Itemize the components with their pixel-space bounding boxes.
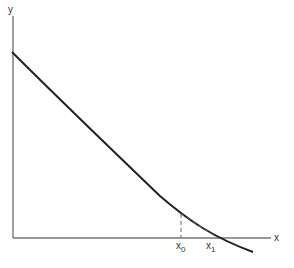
- x1-label: x1: [206, 240, 216, 254]
- x1-subscript: 1: [211, 245, 216, 254]
- x-axis-label: x: [274, 232, 279, 243]
- function-curve: [12, 52, 253, 252]
- newton-method-diagram: y x x0 x1: [0, 0, 294, 268]
- x0-subscript: 0: [181, 245, 186, 254]
- y-axis-label: y: [8, 4, 13, 15]
- x0-label: x0: [176, 240, 186, 254]
